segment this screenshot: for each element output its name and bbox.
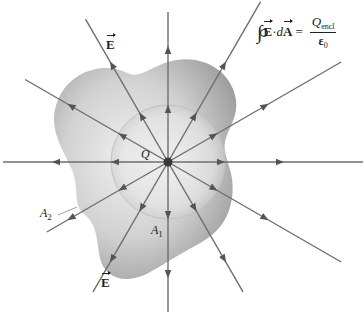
arrow-icon bbox=[71, 217, 73, 218]
arrow-icon bbox=[122, 136, 124, 137]
arrow-icon bbox=[263, 217, 265, 218]
arrow-icon bbox=[142, 116, 143, 118]
arrow-icon bbox=[263, 106, 265, 107]
arrow-icon bbox=[194, 206, 195, 208]
arrow-icon bbox=[223, 257, 224, 259]
charge-label: Q bbox=[141, 148, 150, 160]
equation-equals: = bbox=[295, 24, 302, 40]
a2-leader-line bbox=[58, 207, 77, 215]
equation-denominator: ε0 bbox=[319, 33, 328, 50]
field-label-top: E bbox=[106, 38, 115, 51]
sphere-label-a1: A1 bbox=[151, 224, 163, 239]
arrow-icon bbox=[112, 257, 113, 259]
arrow-icon bbox=[212, 188, 214, 189]
arrow-icon bbox=[122, 188, 124, 189]
equation-numerator: Qencl bbox=[310, 14, 337, 33]
arrow-icon bbox=[112, 65, 113, 67]
point-charge bbox=[164, 158, 173, 167]
equation-E: E bbox=[263, 24, 272, 40]
field-label-bottom: E bbox=[101, 276, 110, 289]
arrow-icon bbox=[212, 136, 214, 137]
equation-fraction: Qencl ε0 bbox=[310, 14, 337, 50]
arrow-icon bbox=[223, 65, 224, 67]
arrow-icon bbox=[71, 106, 73, 107]
closed-integral-symbol: ∫ bbox=[257, 21, 262, 44]
surface-label-a2: A2 bbox=[40, 207, 52, 222]
arrow-icon bbox=[194, 116, 195, 118]
arrow-icon bbox=[142, 206, 143, 208]
equation-A: A bbox=[283, 24, 292, 40]
gauss-law-equation: ∫ E · d A = Qencl ε0 bbox=[257, 12, 336, 52]
